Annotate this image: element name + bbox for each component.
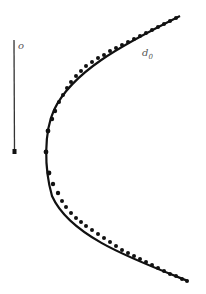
label-o: o (18, 41, 24, 51)
reference-line-end-marker (13, 149, 17, 154)
reference-line (14, 40, 15, 152)
label-d0: d0 (142, 48, 153, 61)
trajectory-curve (46, 16, 188, 281)
label-d0-subscript: 0 (148, 53, 152, 61)
trajectory-points (44, 16, 189, 283)
trajectory-diagram (0, 0, 206, 294)
